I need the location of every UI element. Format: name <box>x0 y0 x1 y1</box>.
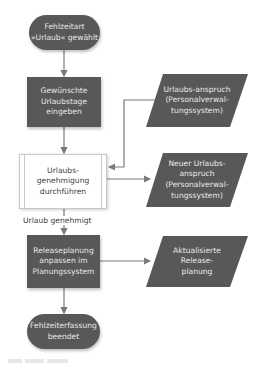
end-terminal: Fehlzeiterfassung beendet <box>27 314 100 349</box>
approve-subprocess: Urlaubs-genehmigung durchführen <box>19 154 107 209</box>
subprocess-right-bar <box>101 155 102 208</box>
approve-label: Urlaubs-genehmigung durchführen <box>32 166 94 198</box>
new-entitlement-data: Neuer Urlaubs-anspruch (Personalverwal-t… <box>146 153 248 207</box>
adjust-release-process: Releaseplanung anpassen im Planungssyste… <box>27 235 100 288</box>
updated-release-label: Aktualisierte Release-planung <box>146 246 248 278</box>
adjust-release-label: Releaseplanung anpassen im Planungssyste… <box>31 246 96 278</box>
caption-fragment <box>8 359 68 363</box>
end-label: Fehlzeiterfassung beendet <box>27 321 100 342</box>
new-entitlement-label: Neuer Urlaubs-anspruch (Personalverwal-t… <box>146 159 248 201</box>
edge-label-approved: Urlaub genehmigt <box>22 216 93 225</box>
enter-days-process: Gewünschte Urlaubstage eingeben <box>27 77 101 127</box>
updated-release-data: Aktualisierte Release-planung <box>146 236 248 287</box>
enter-days-label: Gewünschte Urlaubstage eingeben <box>35 86 93 118</box>
subprocess-left-bar <box>24 155 25 208</box>
entitlement-label: Urlaubs-anspruch (Personalverwal-tungssy… <box>146 85 248 117</box>
start-label: Fehlzeitart »Urlaub« gewählt <box>29 22 100 43</box>
entitlement-data: Urlaubs-anspruch (Personalverwal-tungssy… <box>146 74 248 127</box>
start-terminal: Fehlzeitart »Urlaub« gewählt <box>29 15 100 50</box>
